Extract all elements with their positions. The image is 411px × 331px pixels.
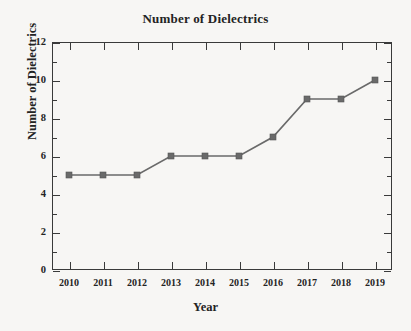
tick-mark [53,252,57,253]
y-tick-label: 2 [16,227,46,237]
y-tick-label: 12 [16,37,46,47]
tick-mark [384,233,391,234]
tick-mark [206,262,207,269]
tick-mark [274,43,275,50]
tick-mark [53,62,57,63]
tick-mark [387,138,391,139]
tick-mark [70,43,71,50]
y-tick-label: 10 [16,75,46,85]
x-axis-title: Year [0,300,411,315]
tick-mark [104,43,105,50]
tick-mark [342,262,343,269]
tick-mark [53,176,57,177]
tick-mark [104,262,105,269]
plot-area [52,42,392,270]
tick-mark [172,43,173,50]
tick-mark [384,119,391,120]
tick-mark [387,214,391,215]
tick-mark [53,100,57,101]
tick-mark [53,138,57,139]
y-tick-label: 4 [16,189,46,199]
tick-mark [240,43,241,50]
tick-mark [53,119,60,120]
y-tick-label: 6 [16,151,46,161]
tick-mark [53,195,60,196]
tick-mark [53,157,60,158]
tick-mark [384,195,391,196]
y-tick-label: 8 [16,113,46,123]
y-tick-label: 0 [16,265,46,275]
tick-mark [206,43,207,50]
tick-mark [70,262,71,269]
x-tick-label: 2019 [353,277,397,288]
tick-mark [376,43,377,50]
tick-mark [342,43,343,50]
tick-mark [138,43,139,50]
tick-mark [172,262,173,269]
tick-mark [53,43,60,44]
tick-mark [240,262,241,269]
tick-mark [376,262,377,269]
tick-mark [384,157,391,158]
chart-page: Number of Dielectrics Number of Dielectr… [0,0,411,331]
tick-mark [53,214,57,215]
tick-mark [138,262,139,269]
tick-mark [53,81,60,82]
tick-mark [274,262,275,269]
tick-mark [384,271,391,272]
tick-mark [53,233,60,234]
tick-mark [308,262,309,269]
tick-mark [384,43,391,44]
tick-mark [384,81,391,82]
tick-mark [53,271,60,272]
chart-title: Number of Dielectrics [0,11,411,27]
tick-mark [387,176,391,177]
tick-mark [387,100,391,101]
tick-mark [308,43,309,50]
tick-mark [387,252,391,253]
tick-mark [387,62,391,63]
